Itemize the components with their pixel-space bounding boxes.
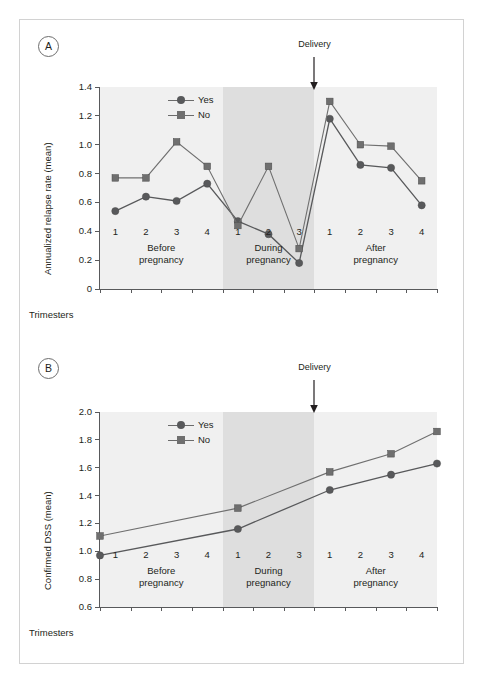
y-tick-label: 1.2	[52, 517, 92, 528]
panel-b-tag: B	[38, 358, 59, 379]
y-tick	[95, 260, 99, 261]
y-tick-label: 1.4	[52, 490, 92, 501]
data-point-no	[112, 175, 119, 182]
x-tick-label: 2	[138, 226, 154, 237]
period-label-before: Beforepregnancy	[116, 242, 206, 266]
y-tick-label: 0	[52, 283, 92, 294]
x-tick-label: 1	[322, 226, 338, 237]
x-tick-label: 3	[169, 549, 185, 560]
series-line-no	[100, 432, 437, 536]
data-point-no	[173, 139, 180, 146]
y-tick-label: 1.4	[52, 81, 92, 92]
data-point-no	[357, 141, 364, 148]
data-point-no	[97, 533, 104, 540]
circle-marker-icon	[177, 96, 185, 104]
y-tick	[95, 87, 99, 88]
x-tick	[314, 289, 315, 293]
x-tick-label: 4	[414, 549, 430, 560]
y-tick	[95, 495, 99, 496]
y-tick	[95, 231, 99, 232]
data-point-yes	[326, 486, 333, 493]
period-label-after: Afterpregnancy	[331, 565, 421, 589]
data-point-yes	[96, 552, 103, 559]
x-tick	[223, 289, 224, 293]
data-point-no	[204, 163, 211, 170]
x-tick-label: 1	[322, 549, 338, 560]
y-tick-label: 0.8	[52, 168, 92, 179]
legend-label-no: No	[198, 434, 210, 445]
x-axis-line	[99, 289, 437, 290]
data-point-yes	[142, 193, 149, 200]
figure-frame: A Delivery Annualized relapse rate (mean…	[19, 19, 464, 664]
x-tick	[376, 607, 377, 611]
y-tick-label: 0.4	[52, 225, 92, 236]
x-tick-label: 3	[291, 549, 307, 560]
y-tick	[95, 115, 99, 116]
data-point-yes	[418, 202, 425, 209]
x-tick	[345, 289, 346, 293]
panel-a-tag: A	[38, 36, 59, 57]
x-tick	[192, 289, 193, 293]
y-tick	[95, 439, 99, 440]
x-tick-label: 1	[230, 549, 246, 560]
y-tick-label: 1.8	[52, 434, 92, 445]
panel-b-delivery-label: Delivery	[288, 362, 340, 372]
x-tick-label: 2	[261, 226, 277, 237]
period-label-during: Duringpregnancy	[224, 242, 314, 266]
data-point-no	[326, 98, 333, 105]
x-tick	[314, 607, 315, 611]
delivery-arrow-icon	[307, 380, 321, 414]
legend-label-yes: Yes	[198, 94, 214, 105]
x-tick	[100, 289, 101, 293]
x-tick	[253, 289, 254, 293]
square-marker-icon	[177, 111, 185, 119]
y-tick	[95, 202, 99, 203]
x-tick	[131, 607, 132, 611]
y-tick-label: 0.6	[52, 196, 92, 207]
x-tick	[131, 289, 132, 293]
period-label-during: Duringpregnancy	[224, 565, 314, 589]
x-tick	[100, 607, 101, 611]
x-tick-label: 1	[230, 226, 246, 237]
x-tick-label: 1	[107, 549, 123, 560]
y-tick	[95, 412, 99, 413]
data-point-no	[235, 505, 242, 512]
y-tick	[95, 551, 99, 552]
panel-b-trimesters-label: Trimesters	[29, 627, 74, 638]
y-tick-label: 2.0	[52, 406, 92, 417]
data-point-yes	[387, 164, 394, 171]
y-tick	[95, 579, 99, 580]
y-tick	[95, 144, 99, 145]
x-tick	[284, 289, 285, 293]
series-line-yes	[100, 464, 437, 556]
x-tick-label: 4	[414, 226, 430, 237]
period-label-after: Afterpregnancy	[331, 242, 421, 266]
data-point-no	[388, 143, 395, 150]
data-point-no	[388, 450, 395, 457]
x-tick	[376, 289, 377, 293]
x-tick	[223, 607, 224, 611]
x-tick-label: 3	[169, 226, 185, 237]
y-tick-label: 0.8	[52, 573, 92, 584]
data-point-no	[265, 163, 272, 170]
data-point-no	[434, 428, 441, 435]
x-tick	[253, 607, 254, 611]
data-point-yes	[204, 180, 211, 187]
x-tick	[161, 607, 162, 611]
delivery-arrow-icon	[307, 57, 321, 91]
legend-label-yes: Yes	[198, 419, 214, 430]
x-tick	[406, 607, 407, 611]
y-tick	[95, 173, 99, 174]
data-point-yes	[112, 207, 119, 214]
x-tick-label: 2	[138, 549, 154, 560]
y-tick-label: 1.0	[52, 139, 92, 150]
x-tick-label: 3	[291, 226, 307, 237]
period-label-before: Beforepregnancy	[116, 565, 206, 589]
panel-b: B Delivery Confirmed DSS (mean) 0.60.81.…	[20, 350, 465, 665]
data-point-yes	[357, 161, 364, 168]
x-axis-line	[99, 607, 437, 608]
x-tick-label: 1	[107, 226, 123, 237]
y-tick	[95, 467, 99, 468]
x-tick	[345, 607, 346, 611]
data-point-yes	[234, 525, 241, 532]
